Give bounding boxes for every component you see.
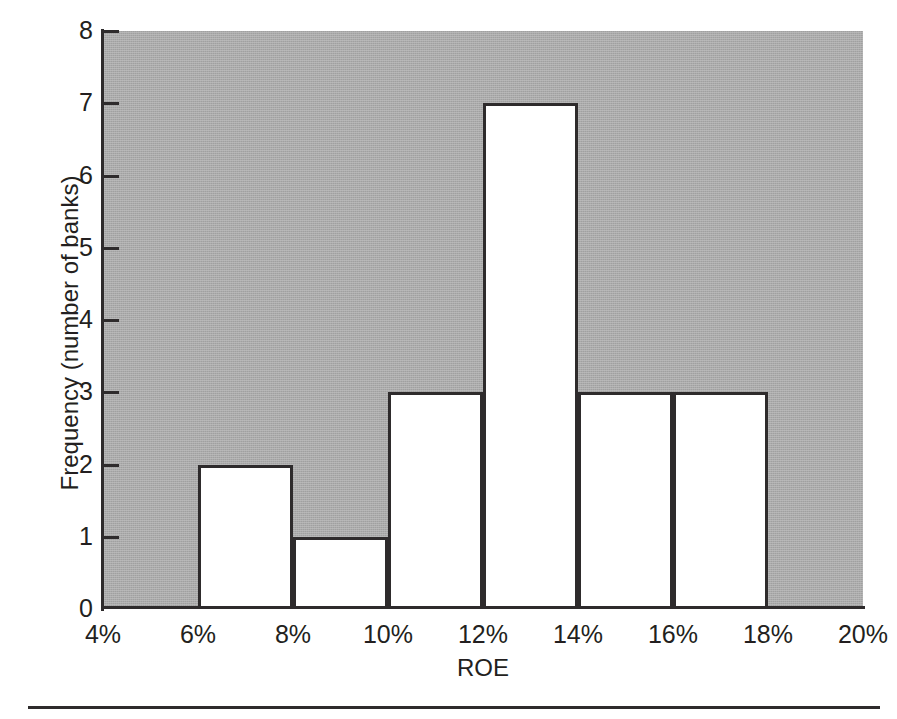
x-axis-title: ROE: [103, 655, 863, 681]
y-axis-tick-label: 7: [23, 90, 93, 115]
x-axis-tick-label: 18%: [713, 620, 823, 648]
y-axis-tick: [104, 536, 119, 539]
y-axis-tick-label: 0: [23, 596, 93, 621]
histogram-bar: [578, 392, 673, 609]
histogram-bar: [388, 392, 483, 609]
x-axis-tick-label: 10%: [333, 620, 443, 648]
histogram-figure: 012345678 4%6%8%10%12%14%16%18%20% Frequ…: [0, 0, 897, 719]
y-axis-tick: [104, 391, 119, 394]
y-axis-tick: [104, 175, 119, 178]
y-axis-tick: [104, 247, 119, 250]
x-axis-tick-label: 16%: [618, 620, 728, 648]
x-axis-tick-label: 12%: [428, 620, 538, 648]
y-axis-tick: [104, 464, 119, 467]
y-axis-tick: [104, 102, 119, 105]
y-axis-tick: [104, 319, 119, 322]
histogram-bar: [293, 537, 388, 609]
y-axis-tick-label: 8: [23, 18, 93, 43]
x-axis-tick-label: 20%: [808, 620, 897, 648]
y-axis-tick-label: 1: [23, 524, 93, 549]
x-axis-tick-label: 8%: [238, 620, 348, 648]
bottom-horizontal-rule: [28, 706, 880, 709]
x-axis-tick-label: 6%: [143, 620, 253, 648]
x-axis-tick-label: 4%: [48, 620, 158, 648]
y-axis-tick: [104, 30, 119, 33]
x-axis-tick-label: 14%: [523, 620, 633, 648]
histogram-bar: [483, 103, 578, 609]
histogram-bar: [673, 392, 768, 609]
y-axis-title: Frequency (number of banks): [57, 143, 83, 523]
histogram-bar: [198, 465, 293, 610]
